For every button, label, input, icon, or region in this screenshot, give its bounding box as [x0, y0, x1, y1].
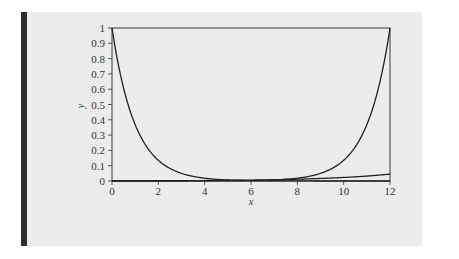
y-tick-label: 0.6 — [91, 83, 105, 95]
line-chart: 00.10.20.30.40.50.60.70.80.91024681012 x… — [0, 0, 459, 259]
y-tick-label: 0.3 — [91, 129, 105, 141]
y-tick-label: 1 — [100, 22, 106, 34]
y-tick-label: 0.8 — [91, 53, 105, 65]
decaying-curve — [112, 28, 390, 181]
y-tick-label: 0.1 — [91, 160, 105, 172]
rising-curve — [112, 28, 390, 181]
y-tick-label: 0.9 — [91, 37, 105, 49]
x-axis-label: x — [248, 196, 254, 207]
y-tick-label: 0.2 — [91, 144, 105, 156]
y-tick-label: 0.4 — [91, 114, 105, 126]
x-tick-label: 10 — [338, 185, 350, 197]
plot-frame — [112, 28, 390, 181]
x-tick-label: 12 — [385, 185, 396, 197]
axis-ticks: 00.10.20.30.40.50.60.70.80.91024681012 — [91, 22, 395, 197]
plot-axes — [112, 28, 390, 181]
slow-rising-curve — [112, 174, 390, 181]
x-tick-label: 2 — [156, 185, 162, 197]
y-tick-label: 0 — [100, 175, 106, 187]
x-tick-label: 0 — [109, 185, 115, 197]
x-tick-label: 4 — [202, 185, 208, 197]
y-tick-label: 0.5 — [91, 99, 105, 111]
y-tick-label: 0.7 — [91, 68, 105, 80]
x-tick-label: 8 — [295, 185, 301, 197]
data-lines — [112, 28, 390, 181]
y-axis-label: y — [75, 103, 86, 109]
